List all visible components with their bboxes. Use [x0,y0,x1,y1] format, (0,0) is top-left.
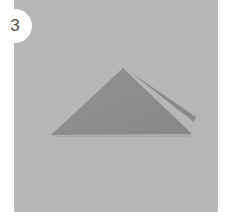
step-number: 3 [10,16,19,36]
folded-paper-triangle-icon [14,0,218,212]
step-image-panel [14,0,218,212]
